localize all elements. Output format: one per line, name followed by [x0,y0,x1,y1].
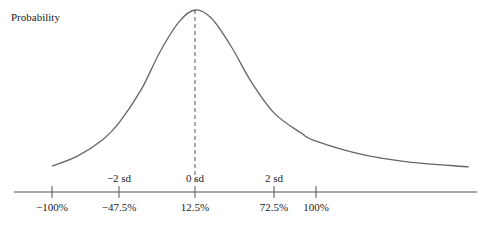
y-axis-label: Probability [11,11,60,23]
density-curve [52,10,469,167]
x-tick-label: −100% [36,201,68,213]
sd-label: 2 sd [265,172,284,184]
x-tick-label: −47.5% [102,201,137,213]
x-tick-label: 72.5% [260,201,288,213]
x-tick-label: 100% [303,201,329,213]
x-tick-label: 12.5% [181,201,209,213]
chart: Probability −100%−47.5%−2 sd12.5%0 sd72.… [0,0,489,225]
plot-area: −100%−47.5%−2 sd12.5%0 sd72.5%2 sd100% [14,10,477,213]
sd-label: −2 sd [107,172,132,184]
